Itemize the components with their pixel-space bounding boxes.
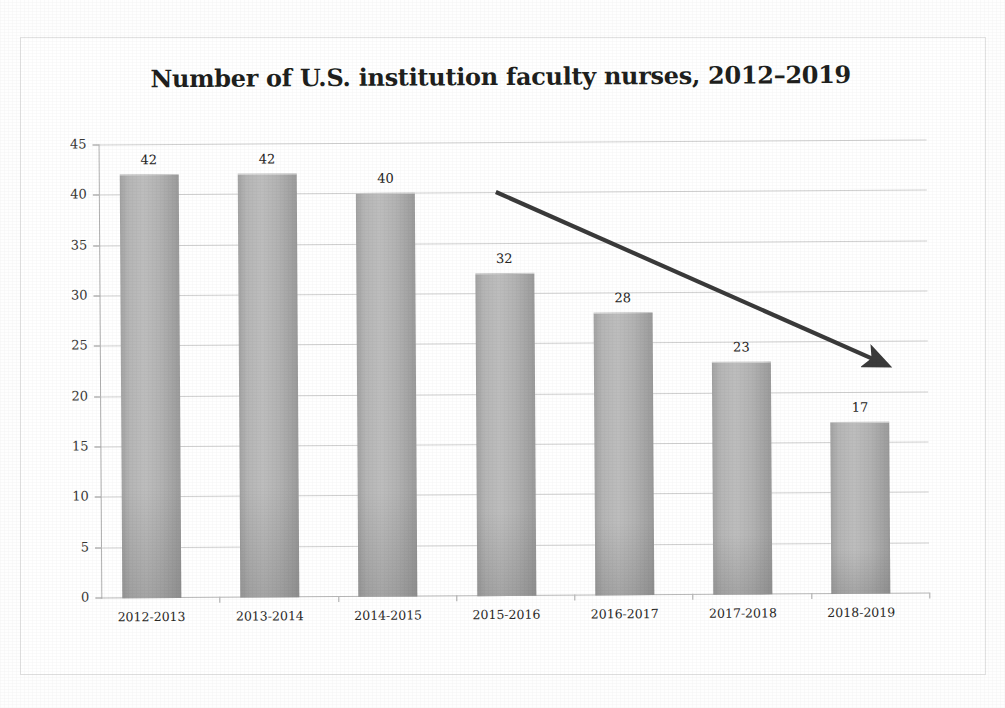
category-label: 2015-2016 — [451, 607, 561, 623]
gridline — [99, 240, 927, 246]
y-tick-label: 0 — [49, 590, 89, 605]
bar-value-label: 42 — [119, 152, 179, 167]
bar-value-label: 28 — [593, 290, 653, 305]
y-tick-label: 20 — [48, 388, 88, 403]
category-label: 2014-2015 — [333, 607, 443, 623]
bar — [238, 173, 300, 597]
gridlines — [99, 139, 927, 144]
bar-value-label: 23 — [711, 340, 771, 355]
category-labels: 2012-20132013-20142014-20152015-20162016… — [0, 0, 1003, 3]
chart-figure: Number of U.S. institution faculty nurse… — [0, 0, 1005, 708]
category-label: 2016-2017 — [570, 606, 680, 622]
gridline — [99, 139, 927, 145]
bar-value-label: 17 — [830, 399, 890, 414]
x-axis — [0, 0, 1003, 3]
y-tick-label: 25 — [48, 338, 88, 353]
bar-value-label: 42 — [237, 151, 297, 166]
bar — [831, 421, 891, 593]
bar — [356, 193, 417, 597]
y-tick-label: 30 — [47, 288, 87, 303]
y-tick-label: 45 — [47, 137, 87, 152]
category-label: 2018-2019 — [806, 604, 916, 620]
bar — [119, 174, 181, 598]
bar-value-labels: 42424032282317 — [0, 0, 1003, 3]
bar — [712, 362, 772, 595]
y-tick-label: 5 — [49, 539, 89, 554]
bar — [593, 312, 654, 595]
plot-area — [99, 139, 930, 597]
y-tick-label: 40 — [47, 187, 87, 202]
gridline — [99, 190, 927, 196]
y-tick-label: 10 — [49, 489, 89, 504]
bar-value-label: 32 — [474, 251, 534, 266]
y-axis: 051015202530354045 — [0, 0, 1003, 3]
chart-title: Number of U.S. institution faculty nurse… — [0, 59, 1003, 94]
category-label: 2017-2018 — [688, 605, 798, 621]
category-label: 2013-2014 — [215, 608, 325, 624]
bar — [475, 273, 536, 596]
y-tick-label: 35 — [47, 237, 87, 252]
bar-value-label: 40 — [355, 171, 415, 186]
category-label: 2012-2013 — [97, 609, 207, 625]
y-tick-label: 15 — [48, 439, 88, 454]
x-tick-mark — [929, 592, 930, 598]
